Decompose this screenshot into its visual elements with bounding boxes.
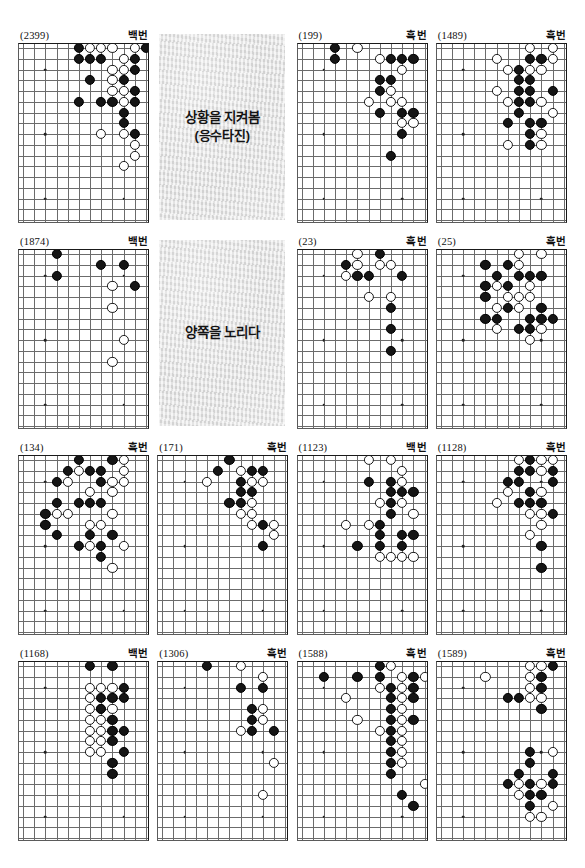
star-point bbox=[122, 815, 125, 818]
problem-panel: (1588)흑번 bbox=[297, 646, 428, 844]
star-point bbox=[44, 609, 47, 612]
turn-label: 흑번 bbox=[406, 234, 426, 249]
panel-header: (199)흑번 bbox=[297, 28, 428, 43]
go-board[interactable] bbox=[297, 43, 428, 223]
panel-row: (1168)백번(1306)흑번(1588)흑번(1589)흑번 bbox=[18, 646, 567, 844]
turn-label: 흑번 bbox=[267, 646, 287, 661]
problem-panel: (199)흑번 bbox=[297, 28, 428, 226]
star-point bbox=[462, 545, 465, 548]
star-point bbox=[323, 815, 326, 818]
board-gridlines bbox=[158, 662, 287, 840]
star-point bbox=[401, 197, 404, 200]
star-point bbox=[262, 815, 265, 818]
turn-label: 흑번 bbox=[546, 234, 566, 249]
go-board[interactable] bbox=[436, 661, 567, 841]
white-stone[interactable] bbox=[419, 672, 427, 682]
go-board[interactable] bbox=[157, 455, 288, 635]
star-point bbox=[262, 751, 265, 754]
star-point bbox=[462, 197, 465, 200]
go-board[interactable] bbox=[18, 455, 149, 635]
go-board[interactable] bbox=[297, 249, 428, 429]
star-point bbox=[323, 197, 326, 200]
panel-header: (1123)백번 bbox=[297, 440, 428, 455]
black-stone[interactable] bbox=[141, 43, 149, 53]
star-point bbox=[183, 751, 186, 754]
go-board[interactable] bbox=[18, 661, 149, 841]
star-point bbox=[44, 480, 47, 483]
star-point bbox=[462, 480, 465, 483]
panel-header: (171)흑번 bbox=[157, 440, 288, 455]
star-point bbox=[323, 686, 326, 689]
problem-panel: (25)흑번 bbox=[436, 234, 567, 432]
problem-number: (1168) bbox=[20, 646, 49, 661]
star-point bbox=[122, 403, 125, 406]
star-point bbox=[323, 480, 326, 483]
turn-label: 흑번 bbox=[546, 440, 566, 455]
problem-number: (1589) bbox=[438, 646, 467, 661]
star-point bbox=[462, 686, 465, 689]
go-board[interactable] bbox=[297, 455, 428, 635]
problem-number: (1306) bbox=[159, 646, 188, 661]
white-stone[interactable] bbox=[419, 779, 427, 789]
panel-header: (1874)백번 bbox=[18, 234, 149, 249]
board-gridlines bbox=[19, 662, 148, 840]
star-point bbox=[401, 609, 404, 612]
turn-label: 흑번 bbox=[406, 646, 426, 661]
star-point bbox=[323, 339, 326, 342]
caption-panel: 양쪽을 노리다 bbox=[157, 234, 288, 432]
star-point bbox=[323, 133, 326, 136]
turn-label: 백번 bbox=[406, 440, 426, 455]
star-point bbox=[401, 815, 404, 818]
caption-line-2: (응수타진) bbox=[185, 127, 259, 146]
star-point bbox=[44, 197, 47, 200]
turn-label: 흑번 bbox=[406, 28, 426, 43]
star-point bbox=[183, 480, 186, 483]
panel-header: (134)흑번 bbox=[18, 440, 149, 455]
problem-panel: (1306)흑번 bbox=[157, 646, 288, 844]
star-point bbox=[462, 339, 465, 342]
panel-header: (1489)흑번 bbox=[436, 28, 567, 43]
go-problem-sheet: (2399)백번상황을 지켜봄(응수타진)(199)흑번(1489)흑번(187… bbox=[0, 0, 585, 868]
star-point bbox=[44, 545, 47, 548]
turn-label: 백번 bbox=[128, 646, 148, 661]
turn-label: 흑번 bbox=[546, 28, 566, 43]
star-point bbox=[323, 274, 326, 277]
go-board[interactable] bbox=[18, 43, 149, 223]
go-board[interactable] bbox=[436, 455, 567, 635]
go-board[interactable] bbox=[18, 249, 149, 429]
problem-panel: (1128)흑번 bbox=[436, 440, 567, 638]
problem-panel: (23)흑번 bbox=[297, 234, 428, 432]
go-board[interactable] bbox=[297, 661, 428, 841]
caption-box: 상황을 지켜봄(응수타진) bbox=[159, 34, 285, 220]
go-board[interactable] bbox=[436, 249, 567, 429]
star-point bbox=[122, 609, 125, 612]
star-point bbox=[44, 751, 47, 754]
panel-header: (2399)백번 bbox=[18, 28, 149, 43]
go-board[interactable] bbox=[436, 43, 567, 223]
problem-panel: (1489)흑번 bbox=[436, 28, 567, 226]
caption-text: 상황을 지켜봄(응수타진) bbox=[185, 108, 259, 146]
problem-panel: (1168)백번 bbox=[18, 646, 149, 844]
star-point bbox=[540, 197, 543, 200]
panel-header: (1589)흑번 bbox=[436, 646, 567, 661]
star-point bbox=[462, 609, 465, 612]
star-point bbox=[183, 815, 186, 818]
panel-header: (1128)흑번 bbox=[436, 440, 567, 455]
panel-row: (1874)백번양쪽을 노리다(23)흑번(25)흑번 bbox=[18, 234, 567, 432]
star-point bbox=[323, 68, 326, 71]
star-point bbox=[44, 133, 47, 136]
problem-number: (134) bbox=[20, 440, 44, 455]
turn-label: 흑번 bbox=[546, 646, 566, 661]
star-point bbox=[44, 686, 47, 689]
go-board[interactable] bbox=[157, 661, 288, 841]
problem-panel: (1874)백번 bbox=[18, 234, 149, 432]
panel-header: (1588)흑번 bbox=[297, 646, 428, 661]
board-gridlines bbox=[19, 44, 148, 222]
star-point bbox=[323, 609, 326, 612]
star-point bbox=[540, 339, 543, 342]
star-point bbox=[540, 480, 543, 483]
panel-header: (1168)백번 bbox=[18, 646, 149, 661]
star-point bbox=[44, 274, 47, 277]
board-gridlines bbox=[437, 44, 566, 222]
turn-label: 백번 bbox=[128, 234, 148, 249]
